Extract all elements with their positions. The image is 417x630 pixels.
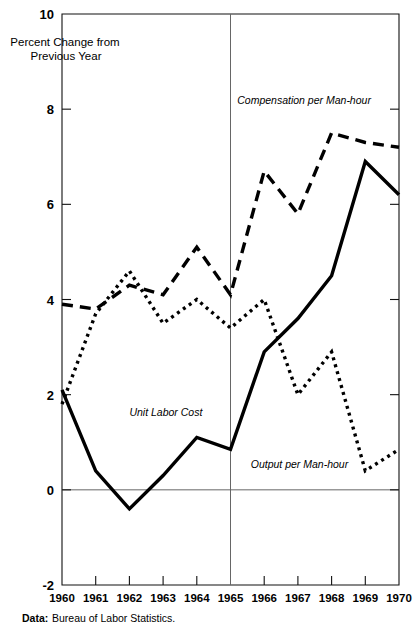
x-tick-label: 1963 — [150, 592, 176, 604]
annotation-unit-labor-cost: Unit Labor Cost — [129, 406, 203, 418]
x-tick-label: 1967 — [285, 592, 311, 604]
y-tick-label: 2 — [47, 388, 54, 403]
y-tick-label: -2 — [42, 578, 54, 593]
x-tick-label: 1968 — [319, 592, 345, 604]
y-axis-title-line1: Percent Change from — [10, 36, 119, 48]
annotation-output-per-man-hour: Output per Man-hour — [251, 458, 349, 470]
x-tick-label: 1964 — [184, 592, 210, 604]
x-tick-label: 1966 — [251, 592, 277, 604]
x-tick-label: 1960 — [49, 592, 75, 604]
x-tick-label: 1965 — [218, 592, 244, 604]
series-annotations: Compensation per Man-hourUnit Labor Cost… — [129, 94, 371, 470]
x-axis-tick-labels: 1960196119621963196419651966196719681969… — [49, 592, 412, 604]
y-axis-title-line2: Previous Year — [31, 50, 102, 62]
x-tick-label: 1962 — [117, 592, 143, 604]
y-axis-tick-labels: 1086420-2 — [40, 7, 55, 593]
line-chart: 1086420-2 196019611962196319641965196619… — [0, 0, 417, 630]
annotation-compensation-per-man-hour: Compensation per Man-hour — [237, 94, 371, 106]
y-tick-label: 6 — [47, 197, 54, 212]
y-tick-label: 4 — [47, 293, 55, 308]
y-tick-label: 8 — [47, 102, 54, 117]
x-tick-label: 1961 — [83, 592, 109, 604]
y-tick-label: 10 — [40, 7, 54, 22]
x-tick-label: 1970 — [386, 592, 412, 604]
x-tick-label: 1969 — [353, 592, 379, 604]
y-tick-label: 0 — [47, 483, 54, 498]
chart-container: 1086420-2 196019611962196319641965196619… — [0, 0, 417, 630]
source-text: Bureau of Labor Statistics. — [52, 612, 175, 624]
source-label: Data: — [22, 612, 48, 624]
